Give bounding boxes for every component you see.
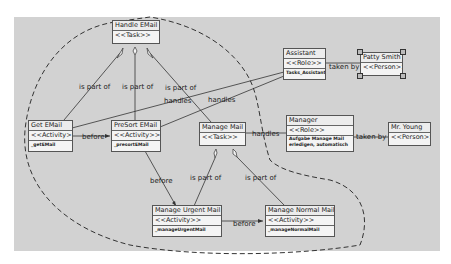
edge-label-is-part-of: is part of: [79, 83, 110, 91]
node-manage-normal-mail[interactable]: Manage Normal Mail <<Activity>> _manageN…: [265, 205, 335, 237]
node-function: _getEMail: [29, 141, 72, 148]
edge-label-taken-by: taken by: [356, 133, 386, 141]
node-function: Tasks_Assistant: [284, 69, 325, 76]
node-patty-smith[interactable]: Patty Smith <<Person>>: [360, 52, 403, 76]
selection-handle-tr[interactable]: [400, 49, 406, 55]
node-manage-urgent-mail[interactable]: Manage Urgent Mail <<Activity>> _manageU…: [152, 205, 222, 237]
node-manage-mail[interactable]: Manage Mail <<Task>>: [199, 122, 246, 146]
selection-handle-tl[interactable]: [357, 49, 363, 55]
edge-label-is-part-of: is part of: [245, 174, 276, 182]
node-name: Get EMail: [29, 121, 72, 131]
node-name: Assistant: [284, 49, 325, 59]
edge-label-handles: handles: [208, 96, 236, 104]
edge-label-handles: handles: [164, 97, 192, 105]
node-name: Manage Urgent Mail: [153, 206, 221, 216]
node-stereotype: <<Role>>: [284, 59, 325, 69]
edge-label-is-part-of: is part of: [122, 83, 153, 91]
node-name: Handle EMail: [113, 21, 159, 31]
node-stereotype: <<Activity>>: [112, 131, 160, 141]
edge-label-before: before: [82, 133, 105, 141]
node-assistant[interactable]: Assistant <<Role>> Tasks_Assistant: [283, 48, 326, 80]
node-function: _manageUrgentMail: [153, 226, 221, 233]
node-name: PreSort EMail: [112, 121, 160, 131]
node-manager[interactable]: Manager <<Role>> Aufgabe Manage Mail erl…: [286, 115, 354, 152]
node-name: Manager: [287, 116, 353, 126]
node-stereotype: <<Role>>: [287, 126, 353, 136]
node-stereotype: <<Activity>>: [29, 131, 72, 141]
node-name: Mr. Young: [389, 123, 430, 133]
node-function: _presortEMail: [112, 141, 160, 148]
edge-label-before: before: [150, 177, 173, 185]
node-function: Aufgabe Manage Mail erledigen, automatis…: [287, 136, 353, 147]
selection-handle-bl[interactable]: [357, 73, 363, 79]
node-name: Manage Normal Mail: [266, 206, 334, 216]
node-name: Patty Smith: [361, 53, 402, 63]
node-stereotype: <<Task>>: [113, 31, 159, 40]
node-get-email[interactable]: Get EMail <<Activity>> _getEMail: [28, 120, 73, 152]
node-name: Manage Mail: [200, 123, 245, 133]
node-presort-email[interactable]: PreSort EMail <<Activity>> _presortEMail: [111, 120, 161, 152]
node-stereotype: <<Activity>>: [266, 216, 334, 226]
node-stereotype: <<Activity>>: [153, 216, 221, 226]
edge-label-is-part-of: is part of: [190, 174, 221, 182]
node-stereotype: <<Person>>: [389, 133, 430, 142]
edge-label-taken-by: taken by: [329, 63, 359, 71]
node-handle-email[interactable]: Handle EMail <<Task>>: [112, 20, 160, 44]
edge-label-handles: handles: [252, 130, 280, 138]
node-stereotype: <<Person>>: [361, 63, 402, 72]
edge-label-before: before: [233, 220, 256, 228]
edge-label-is-part-of: is part of: [165, 84, 196, 92]
selection-handle-br[interactable]: [400, 73, 406, 79]
node-function: _manageNormalMail: [266, 226, 334, 233]
node-stereotype: <<Task>>: [200, 133, 245, 142]
node-mr-young[interactable]: Mr. Young <<Person>>: [388, 122, 431, 146]
